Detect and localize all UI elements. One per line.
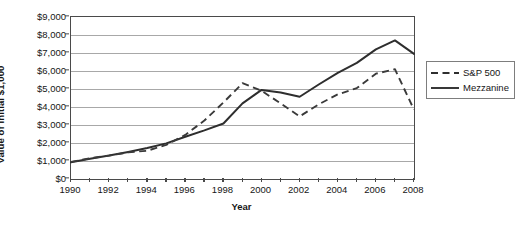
x-axis-tick-mark	[127, 178, 128, 182]
y-axis-tick-mark	[65, 15, 69, 16]
x-axis-tick-mark	[394, 178, 395, 182]
x-axis-tick-label: 2000	[250, 184, 271, 195]
y-axis-tick-label: $2,000	[37, 137, 66, 148]
legend-solid-line-icon	[431, 83, 459, 93]
x-axis-tick-label: 1996	[174, 184, 195, 195]
x-axis-tick-label: 1994	[136, 184, 157, 195]
y-axis-tick-label: $7,000	[37, 47, 66, 58]
plot-area	[70, 16, 415, 180]
x-axis-tick-label: 2006	[364, 184, 385, 195]
series-line-mezzanine	[71, 40, 414, 162]
x-axis-tick-label: 2004	[326, 184, 347, 195]
x-axis-tick-label: 1990	[59, 184, 80, 195]
x-axis-tick-mark	[375, 178, 376, 182]
x-axis-tick-mark	[318, 178, 319, 182]
x-axis-tick-mark	[70, 178, 71, 182]
x-axis-tick-label: 1998	[212, 184, 233, 195]
x-axis-tick-mark	[146, 178, 147, 182]
legend-item[interactable]: S&P 500	[431, 65, 509, 80]
x-axis-tick-label: 2002	[288, 184, 309, 195]
x-axis-tick-label: 1992	[98, 184, 119, 195]
x-axis-tick-mark	[356, 178, 357, 182]
x-axis-tick-mark	[108, 178, 109, 182]
x-axis-tick-mark	[337, 178, 338, 182]
y-axis-tick-mark	[65, 177, 69, 178]
y-axis-tick-mark	[65, 51, 69, 52]
legend-item-label: Mezzanine	[463, 82, 509, 93]
line-chart: Value of Initial $1,000 $0$1,000$2,000$3…	[0, 0, 524, 229]
x-axis-tick-mark	[184, 178, 185, 182]
y-axis-tick-label: $1,000	[37, 155, 66, 166]
series-line-sp500	[71, 69, 414, 162]
x-axis-tick-marks	[70, 178, 413, 183]
y-axis-tick-label: $3,000	[37, 119, 66, 130]
legend-item[interactable]: Mezzanine	[431, 80, 509, 95]
x-axis-tick-mark	[242, 178, 243, 182]
x-axis-tick-labels: 1990199219941996199820002002200420062008	[70, 184, 413, 198]
chart-legend: S&P 500Mezzanine	[426, 61, 515, 99]
y-axis-tick-mark	[65, 105, 69, 106]
y-axis-tick-mark	[65, 141, 69, 142]
x-axis-title: Year	[70, 201, 413, 212]
legend-item-label: S&P 500	[463, 67, 500, 78]
x-axis-tick-mark	[89, 178, 90, 182]
y-axis-tick-mark	[65, 69, 69, 70]
x-axis-tick-mark	[413, 178, 414, 182]
y-axis-tick-label: $6,000	[37, 65, 66, 76]
x-axis-tick-mark	[280, 178, 281, 182]
x-axis-tick-mark	[203, 178, 204, 182]
y-axis-tick-label: $4,000	[37, 101, 66, 112]
x-axis-tick-mark	[165, 178, 166, 182]
legend-dashed-line-icon	[431, 68, 459, 78]
y-axis-tick-label: $8,000	[37, 29, 66, 40]
y-axis-tick-labels: $0$1,000$2,000$3,000$4,000$5,000$6,000$7…	[24, 16, 70, 178]
y-axis-tick-mark	[65, 123, 69, 124]
y-axis-tick-label: $5,000	[37, 83, 66, 94]
y-axis-tick-label: $9,000	[37, 11, 66, 22]
y-axis-tick-mark	[65, 87, 69, 88]
x-axis-tick-mark	[261, 178, 262, 182]
y-axis-tick-mark	[65, 33, 69, 34]
y-axis-tick-mark	[65, 159, 69, 160]
x-axis-tick-mark	[222, 178, 223, 182]
series-layer	[71, 17, 414, 179]
x-axis-tick-mark	[299, 178, 300, 182]
x-axis-tick-label: 2008	[402, 184, 423, 195]
